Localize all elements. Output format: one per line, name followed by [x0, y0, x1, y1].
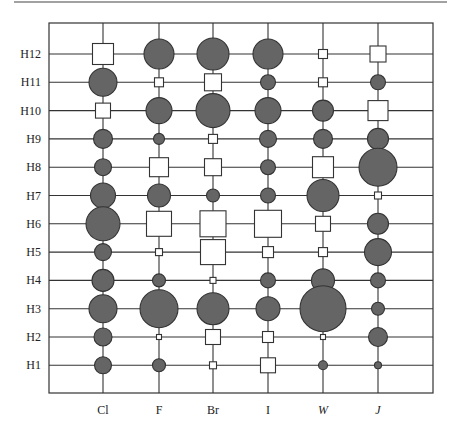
circle-marker	[313, 100, 334, 121]
square-marker	[209, 134, 218, 143]
circle-marker	[94, 328, 112, 346]
square-marker	[201, 240, 226, 265]
square-marker	[263, 247, 274, 258]
row-label: H7	[26, 189, 41, 203]
circle-marker	[255, 98, 281, 124]
circle-marker	[89, 68, 117, 96]
column-label: J	[375, 403, 381, 417]
row-label: H3	[26, 302, 41, 316]
square-marker	[205, 159, 222, 176]
circle-marker	[153, 274, 166, 287]
circle-marker	[371, 75, 386, 90]
column-label: F	[156, 403, 163, 417]
row-label: H4	[26, 273, 41, 287]
circle-marker	[95, 357, 112, 374]
circle-marker	[94, 129, 113, 148]
square-marker	[319, 50, 328, 59]
circle-marker	[144, 39, 174, 69]
circle-marker	[261, 75, 276, 90]
circle-marker	[375, 362, 382, 369]
square-marker	[156, 249, 163, 256]
circle-marker	[89, 295, 117, 323]
circle-marker	[369, 328, 388, 347]
circle-marker	[371, 273, 386, 288]
square-marker	[368, 101, 388, 121]
row-label: H1	[26, 358, 41, 372]
circle-marker	[359, 148, 397, 186]
column-label: Br	[207, 403, 219, 417]
circle-marker	[300, 286, 346, 332]
markers	[86, 38, 397, 374]
circle-marker	[253, 39, 283, 69]
circle-marker	[368, 128, 389, 149]
circle-marker	[197, 293, 229, 325]
circle-marker	[256, 297, 280, 321]
circle-marker	[196, 94, 230, 128]
circle-marker	[314, 129, 333, 148]
circle-marker	[148, 184, 171, 207]
square-marker	[261, 358, 276, 373]
circle-marker	[368, 213, 389, 234]
circle-marker	[207, 189, 220, 202]
square-marker	[375, 192, 382, 199]
square-marker	[316, 216, 331, 231]
row-label: H6	[26, 217, 41, 231]
y-axis-labels: H12H11H10H9H8H7H6H5H4H3H2H1	[20, 47, 41, 372]
circle-marker	[261, 273, 276, 288]
circle-marker	[154, 133, 165, 144]
square-marker	[205, 74, 222, 91]
column-label: I	[266, 403, 270, 417]
circle-marker	[146, 98, 172, 124]
row-label: H8	[26, 160, 41, 174]
circle-marker	[95, 244, 112, 261]
x-axis-labels: ClFBrIWJ	[97, 403, 381, 417]
row-label: H9	[26, 132, 41, 146]
circle-marker	[140, 290, 178, 328]
circle-marker	[92, 269, 114, 291]
circle-marker	[261, 188, 276, 203]
row-label: H5	[26, 245, 41, 259]
square-marker	[319, 78, 328, 87]
circle-marker	[261, 160, 276, 175]
circle-marker	[372, 302, 385, 315]
square-marker	[96, 103, 111, 118]
square-marker	[319, 248, 328, 257]
square-marker	[155, 78, 164, 87]
circle-marker	[86, 207, 120, 241]
square-marker	[370, 46, 386, 62]
square-marker	[157, 335, 162, 340]
circle-marker	[153, 359, 166, 372]
circle-marker	[307, 180, 339, 212]
square-marker	[200, 211, 226, 237]
square-marker	[263, 332, 274, 343]
square-marker	[321, 335, 326, 340]
square-marker	[210, 362, 217, 369]
row-label: H10	[20, 104, 41, 118]
circle-marker	[95, 159, 112, 176]
circle-marker	[319, 361, 328, 370]
square-marker	[150, 158, 169, 177]
column-label: W	[318, 403, 329, 417]
column-label: Cl	[97, 403, 109, 417]
square-marker	[206, 330, 221, 345]
row-label: H11	[21, 75, 41, 89]
bubble-matrix-chart: H12H11H10H9H8H7H6H5H4H3H2H1 ClFBrIWJ	[0, 0, 456, 438]
row-label: H2	[26, 330, 41, 344]
circle-marker	[365, 239, 392, 266]
circle-marker	[260, 130, 277, 147]
row-label: H12	[20, 47, 41, 61]
square-marker	[147, 211, 172, 236]
square-marker	[93, 44, 114, 65]
square-marker	[313, 157, 334, 178]
circle-marker	[91, 183, 116, 208]
square-marker	[255, 210, 282, 237]
square-marker	[210, 277, 216, 283]
circle-marker	[197, 38, 229, 70]
